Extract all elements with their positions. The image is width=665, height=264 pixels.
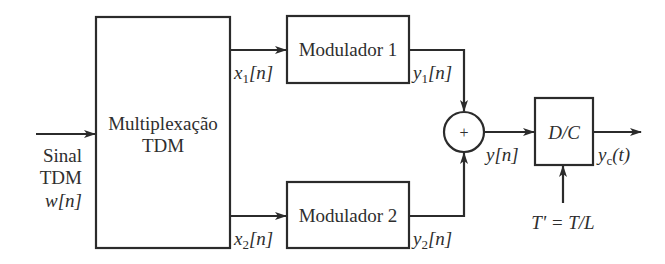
y2-label: y2[n]: [411, 228, 452, 252]
x1-label: x1[n]: [233, 62, 273, 86]
input-label-line2: TDM: [40, 167, 82, 188]
modulator-2-label: Modulador 2: [299, 205, 398, 226]
input-signal-label: w[n]: [45, 190, 82, 211]
x2-label: x2[n]: [233, 228, 273, 252]
dc-converter-label: D/C: [547, 122, 580, 143]
modulator-1-label: Modulador 1: [299, 39, 398, 60]
multiplexer-label-line1: Multiplexação: [108, 113, 218, 134]
y1-label: y1[n]: [411, 62, 452, 86]
sampling-period-label: T' = T/L: [531, 212, 594, 233]
input-label-line1: Sinal: [43, 145, 82, 166]
tdm-demultiplex-diagram: Sinal TDM w[n] Multiplexação TDM x1[n] x…: [0, 0, 665, 264]
yc-label: yc(t): [596, 144, 630, 168]
multiplexer-label-line2: TDM: [142, 135, 184, 156]
y-label: y[n]: [484, 144, 519, 165]
y2-arrow: [409, 153, 464, 216]
plus-icon: +: [459, 124, 468, 141]
